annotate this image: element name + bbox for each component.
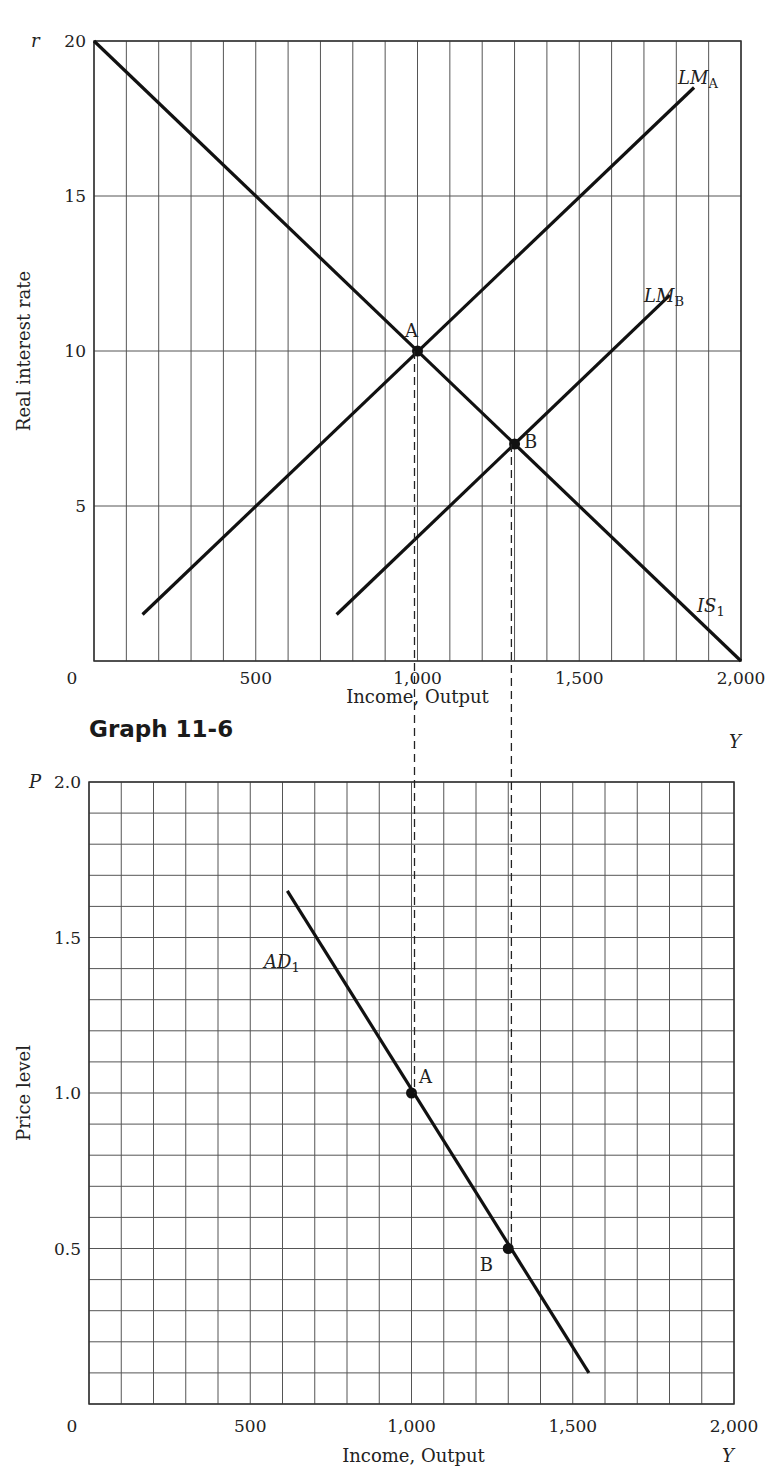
y-tick-label: 20 (64, 31, 86, 51)
x-tick-label: 1,000 (387, 1416, 436, 1436)
y-tick-label: 5 (75, 496, 86, 516)
point-a-marker (406, 1088, 417, 1099)
y-tick-label: 15 (64, 186, 86, 206)
curve-label-ad1: AD1 (262, 951, 300, 975)
x-tick-label: 1,500 (548, 1416, 597, 1436)
point-b-label: B (524, 431, 537, 452)
y-axis-symbol: P (28, 771, 42, 792)
y-tick-label: 0.5 (54, 1239, 81, 1259)
ad-chart: 0.51.01.52.0P05001,0001,5002,000Income, … (13, 771, 758, 1466)
x-tick-label: 500 (234, 1416, 266, 1436)
point-a-label: A (404, 320, 419, 341)
graph-figure: Graph 11-6 5101520r05001,0001,5002,000In… (0, 0, 784, 1472)
point-b-label: B (480, 1254, 493, 1275)
y-tick-label: 10 (64, 341, 86, 361)
x-tick-label: 1,500 (555, 668, 604, 688)
point-b-marker (509, 439, 520, 450)
point-a-marker (412, 346, 423, 357)
point-a-label: A (418, 1066, 433, 1087)
curve-label-lma: LMA (677, 67, 718, 91)
y-tick-label: 1.0 (54, 1083, 81, 1103)
x-axis-symbol: Y (722, 1445, 736, 1466)
y-axis-symbol: r (31, 30, 41, 51)
x-tick-label: 1,000 (393, 668, 442, 688)
y-tick-label: 2.0 (54, 772, 81, 792)
x-tick-label: 2,000 (710, 1416, 759, 1436)
x-tick-label: 500 (240, 668, 272, 688)
is-lm-chart: 5101520r05001,0001,5002,000Income, Outpu… (13, 30, 765, 752)
x-tick-label: 0 (67, 668, 78, 688)
y-tick-label: 1.5 (54, 928, 81, 948)
x-axis-label: Income, Output (342, 1445, 485, 1466)
curve-lmb (337, 295, 670, 614)
graph-heading: Graph 11-6 (89, 716, 233, 742)
y-axis-label: Price level (13, 1045, 34, 1141)
curve-label-is1: IS1 (696, 595, 725, 619)
curve-ad1 (287, 891, 589, 1373)
x-tick-label: 0 (67, 1416, 78, 1436)
y-axis-label: Real interest rate (13, 271, 34, 431)
x-tick-label: 2,000 (717, 668, 766, 688)
x-axis-label: Income, Output (346, 686, 489, 707)
point-b-marker (503, 1243, 514, 1254)
x-axis-symbol: Y (729, 731, 743, 752)
curve-label-lmb: LMB (643, 285, 684, 309)
